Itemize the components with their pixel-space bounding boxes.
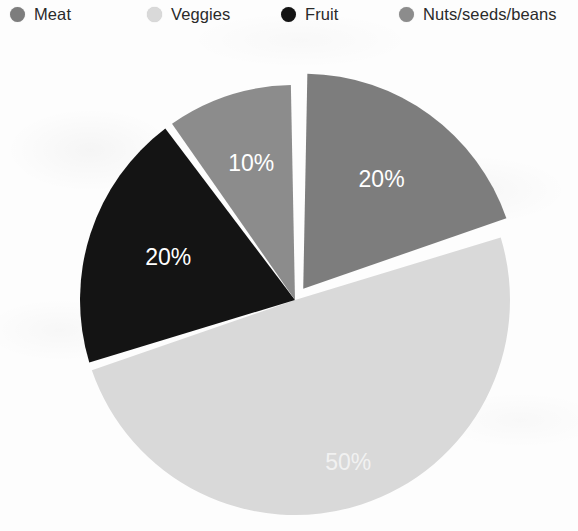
- pie-chart-svg: 20%50%20%10%: [0, 0, 578, 531]
- pie-slice-label: 20%: [145, 244, 191, 270]
- pie-slice-label: 50%: [325, 449, 371, 475]
- circle-swatch-icon: [399, 7, 414, 22]
- pie-slice-label: 20%: [359, 166, 405, 192]
- pie-slice-group: [80, 74, 510, 515]
- legend-item-veggies[interactable]: Veggies: [147, 5, 230, 24]
- legend-item-label: Fruit: [305, 5, 339, 24]
- pie-slice-label: 10%: [228, 150, 274, 176]
- pie-chart: 20%50%20%10%: [0, 0, 578, 531]
- circle-swatch-icon: [281, 7, 296, 22]
- legend-item-fruit[interactable]: Fruit: [281, 5, 339, 24]
- circle-swatch-icon: [147, 7, 162, 22]
- legend-item-meat[interactable]: Meat: [10, 5, 71, 24]
- chart-legend: MeatVeggiesFruitNuts/seeds/beans: [0, 0, 578, 28]
- legend-item-label: Veggies: [171, 5, 230, 24]
- legend-item-label: Meat: [34, 5, 71, 24]
- circle-swatch-icon: [10, 7, 25, 22]
- legend-item-nuts-seeds-beans[interactable]: Nuts/seeds/beans: [399, 5, 557, 24]
- legend-item-label: Nuts/seeds/beans: [423, 5, 557, 24]
